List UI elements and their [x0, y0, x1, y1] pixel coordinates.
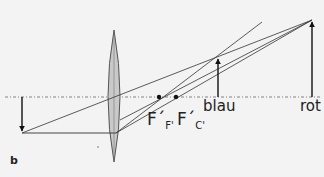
label-focal-red: F´C': [177, 111, 205, 131]
refracted-ray-red: [116, 20, 312, 133]
focal-red-main: F´: [177, 109, 195, 129]
focal-blue-sub: F': [165, 120, 174, 131]
focal-point-red: [174, 95, 178, 99]
focal-red-sub: C': [195, 120, 205, 131]
lens-chromatic-aberration-diagram: blau rot F´F' F´C' b: [0, 0, 324, 177]
stray-dot: [97, 146, 98, 147]
panel-label: b: [10, 155, 18, 166]
focal-blue-main: F´: [147, 109, 165, 129]
diagram-svg: [0, 0, 324, 177]
focal-point-blue: [157, 95, 161, 99]
label-blau: blau: [203, 99, 235, 114]
label-focal-blue: F´F': [147, 111, 174, 131]
label-rot: rot: [300, 99, 321, 114]
